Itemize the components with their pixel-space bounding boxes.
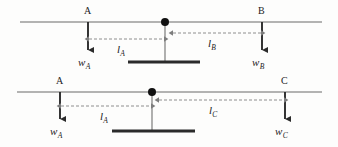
lever-diagram-bottom-graphics (0, 70, 338, 147)
pivot-dot-top (161, 18, 169, 26)
lever-diagram-top-graphics (0, 0, 338, 74)
lever-diagram-bottom: A C wA wC lA lC (0, 70, 338, 147)
figure-canvas: A B wA wB lA lB (0, 0, 338, 147)
pivot-dot-bottom (148, 88, 156, 96)
lever-diagram-top: A B wA wB lA lB (0, 0, 338, 74)
